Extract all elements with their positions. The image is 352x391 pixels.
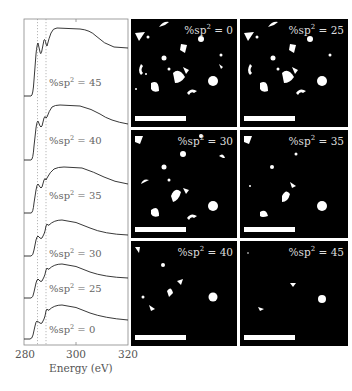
x-tick-300: 300: [66, 348, 86, 360]
x-axis-label: Energy (eV): [49, 362, 113, 374]
panel-label: %sp2 = 35: [289, 134, 344, 147]
map-panel-sp2-40: %sp2 = 40: [131, 241, 237, 346]
map-panel-sp2-35: %sp2 = 35: [240, 130, 348, 238]
scale-bar: [244, 227, 295, 232]
panel-label: %sp2 = 45: [289, 245, 344, 258]
spectrum-label-0: %sp2 = 0: [49, 323, 95, 335]
scale-bar: [135, 335, 186, 340]
map-panel-sp2-30: %sp2 = 30: [131, 130, 237, 238]
map-panel-sp2-45: %sp2 = 45: [240, 241, 348, 346]
scale-bar: [135, 227, 186, 232]
spectrum-label-40: %sp2 = 40: [49, 134, 102, 146]
panel-label: %sp2 = 40: [178, 245, 233, 258]
panel-label: %sp2 = 30: [178, 134, 233, 147]
spectrum-label-25: %sp2 = 25: [49, 282, 102, 294]
spectrum-label-30: %sp2 = 30: [49, 247, 102, 259]
spectrum-label-45: %sp2 = 45: [49, 76, 102, 88]
scale-bar: [244, 116, 295, 121]
x-tick-320: 320: [118, 348, 138, 360]
panel-label: %sp2 = 0: [184, 23, 233, 36]
scale-bar: [135, 116, 186, 121]
map-panel-sp2-25: %sp2 = 25: [240, 19, 348, 127]
map-panel-sp2-0: %sp2 = 0: [131, 19, 237, 127]
spectrum-40: [24, 105, 128, 160]
scale-bar: [244, 335, 295, 340]
panel-label: %sp2 = 25: [289, 23, 344, 36]
spectrum-label-35: %sp2 = 35: [49, 189, 102, 201]
x-tick-280: 280: [15, 348, 35, 360]
plot-frame: [24, 19, 128, 345]
